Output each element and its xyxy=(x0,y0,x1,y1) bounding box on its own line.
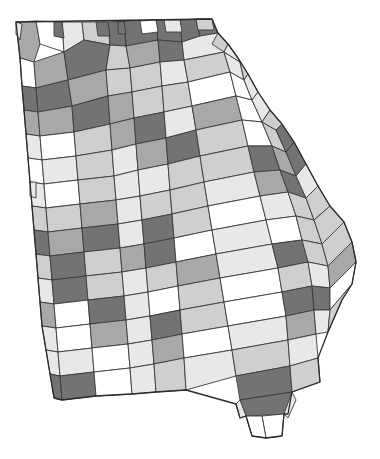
county-region xyxy=(158,40,184,62)
county-region xyxy=(308,262,330,288)
county-region xyxy=(54,300,90,328)
county-region xyxy=(52,276,88,304)
county-region xyxy=(124,292,150,320)
county-region xyxy=(40,132,76,160)
county-region xyxy=(84,248,122,276)
county-region xyxy=(118,220,144,248)
county-region xyxy=(44,180,80,208)
county-region xyxy=(58,348,94,376)
county-region xyxy=(42,156,78,184)
county-region xyxy=(164,20,182,32)
county-region xyxy=(56,324,92,352)
county-region xyxy=(120,244,146,272)
county-region xyxy=(154,358,186,392)
county-region xyxy=(50,252,86,280)
county-region xyxy=(86,272,124,300)
county-region xyxy=(196,19,214,30)
county-region xyxy=(106,68,132,96)
county-region xyxy=(80,200,118,228)
county-region xyxy=(130,364,156,394)
county-region xyxy=(312,286,330,310)
county-region xyxy=(140,20,158,34)
county-region xyxy=(48,228,84,256)
county-region xyxy=(122,268,148,296)
county-region xyxy=(94,368,132,396)
map-svg-canvas xyxy=(0,0,380,459)
county-region xyxy=(96,22,110,36)
county-region xyxy=(46,204,82,232)
georgia-county-choropleth-map xyxy=(0,0,380,459)
county-region xyxy=(90,320,128,348)
county-region xyxy=(314,310,330,334)
county-region xyxy=(116,196,142,224)
county-region xyxy=(82,224,120,252)
county-region xyxy=(126,316,152,344)
county-region xyxy=(128,340,154,368)
county-region xyxy=(160,60,188,86)
county-region xyxy=(54,22,64,38)
county-region xyxy=(78,176,116,204)
county-region xyxy=(92,344,130,372)
county-region xyxy=(60,372,96,400)
county-region xyxy=(88,296,126,324)
